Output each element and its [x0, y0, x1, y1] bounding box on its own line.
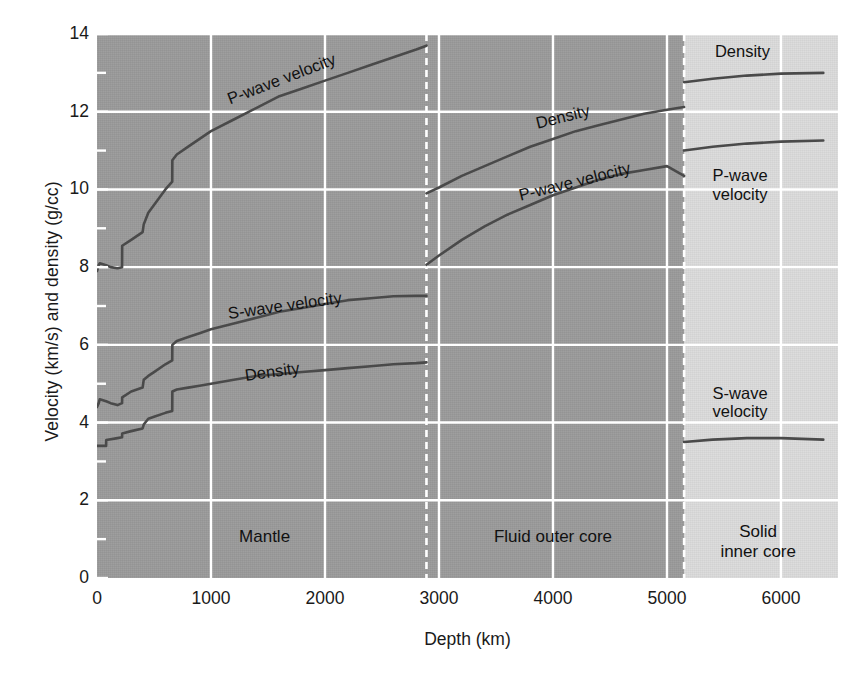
y-tick-label: 12 [55, 103, 89, 121]
region-label-line: Mantle [239, 527, 290, 547]
x-tick-label: 6000 [762, 590, 801, 608]
region-label-line: inner core [720, 542, 796, 562]
annotation-density-inner-core: Density [715, 42, 770, 60]
y-tick-label: 8 [55, 258, 89, 276]
annotation-p-wave-inner-core: P-wavevelocity [713, 166, 768, 203]
seismic-velocity-density-chart: Velocity (km/s) and density (g/cc) Depth… [0, 0, 842, 675]
annotation-s-wave-inner-core: S-wavevelocity [713, 384, 768, 421]
region-label-solid-inner-core: Solidinner core [720, 522, 796, 563]
gridlines [97, 34, 838, 578]
axis-tick-marks [97, 34, 108, 578]
curve-density-solid-inner-core [684, 73, 823, 82]
x-tick-label: 5000 [648, 590, 687, 608]
x-axis-tick-labels: 0100020003000400050006000 [0, 590, 842, 616]
x-tick-label: 4000 [534, 590, 573, 608]
plot-area: P-wave velocityS-wave velocityDensityDen… [97, 34, 838, 578]
region-label-fluid-outer-core: Fluid outer core [494, 527, 612, 547]
region-label-mantle: Mantle [239, 527, 290, 547]
annotation-line: P-wave [713, 166, 768, 184]
y-tick-label: 14 [55, 25, 89, 43]
annotation-line: S-wave [713, 384, 768, 402]
y-tick-label: 10 [55, 181, 89, 199]
annotation-line: Density [715, 42, 770, 60]
curve-p-wave-velocity-solid-inner-core [684, 140, 823, 150]
x-tick-label: 0 [92, 590, 102, 608]
x-axis-title: Depth (km) [97, 629, 838, 650]
x-tick-label: 2000 [306, 590, 345, 608]
curves-layer [97, 34, 838, 578]
region-label-line: Fluid outer core [494, 527, 612, 547]
y-tick-label: 2 [55, 492, 89, 510]
region-label-line: Solid [720, 522, 796, 542]
y-tick-label: 4 [55, 414, 89, 432]
y-tick-label: 6 [55, 336, 89, 354]
curve-s-wave-velocity-solid-inner-core [684, 438, 823, 442]
x-tick-label: 3000 [420, 590, 459, 608]
x-tick-label: 1000 [192, 590, 231, 608]
y-axis-tick-labels: 02468101214 [49, 0, 89, 675]
annotation-line: velocity [713, 402, 768, 420]
annotation-line: velocity [713, 185, 768, 203]
y-tick-label: 0 [55, 569, 89, 587]
